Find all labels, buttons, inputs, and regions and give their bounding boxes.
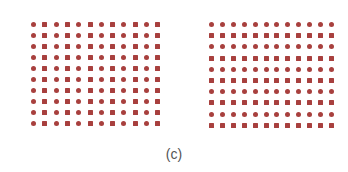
square-dot <box>242 123 247 128</box>
square-dot <box>155 22 160 27</box>
circle-dot <box>54 44 59 49</box>
square-dot <box>318 33 323 38</box>
circle-dot <box>318 112 323 117</box>
square-dot <box>155 44 160 49</box>
square-dot <box>231 78 236 83</box>
square-dot <box>296 100 301 105</box>
circle-dot <box>253 89 258 94</box>
circle-dot <box>99 55 104 60</box>
square-dot <box>65 44 70 49</box>
circle-dot <box>121 99 126 104</box>
circle-dot <box>274 67 279 72</box>
circle-dot <box>264 22 269 27</box>
circle-dot <box>285 44 290 49</box>
circle-dot <box>144 44 149 49</box>
circle-dot <box>54 66 59 71</box>
square-dot <box>318 123 323 128</box>
circle-dot <box>220 67 225 72</box>
square-dot <box>220 100 225 105</box>
circle-dot <box>31 55 36 60</box>
circle-dot <box>54 77 59 82</box>
circle-dot <box>329 22 334 27</box>
square-dot <box>209 100 214 105</box>
square-dot <box>65 88 70 93</box>
circle-dot <box>76 99 81 104</box>
circle-dot <box>264 44 269 49</box>
square-dot <box>285 78 290 83</box>
circle-dot <box>209 67 214 72</box>
square-dot <box>133 66 138 71</box>
circle-dot <box>99 66 104 71</box>
square-dot <box>231 100 236 105</box>
square-dot <box>307 56 312 61</box>
square-dot <box>296 78 301 83</box>
circle-dot <box>242 44 247 49</box>
square-dot <box>264 100 269 105</box>
circle-dot <box>209 44 214 49</box>
square-dot <box>209 56 214 61</box>
circle-dot <box>31 88 36 93</box>
square-dot <box>274 78 279 83</box>
square-dot <box>65 22 70 27</box>
square-dot <box>42 22 47 27</box>
circle-dot <box>231 89 236 94</box>
square-dot <box>42 55 47 60</box>
square-dot <box>274 56 279 61</box>
circle-dot <box>144 77 149 82</box>
square-dot <box>110 77 115 82</box>
square-dot <box>253 100 258 105</box>
square-dot <box>65 121 70 126</box>
circle-dot <box>121 88 126 93</box>
circle-dot <box>209 89 214 94</box>
circle-dot <box>54 33 59 38</box>
square-dot <box>133 22 138 27</box>
circle-dot <box>144 88 149 93</box>
square-dot <box>88 121 93 126</box>
square-dot <box>42 44 47 49</box>
circle-dot <box>76 66 81 71</box>
square-dot <box>231 123 236 128</box>
square-dot <box>110 22 115 27</box>
square-dot <box>88 66 93 71</box>
square-dot <box>155 121 160 126</box>
square-dot <box>42 33 47 38</box>
square-dot <box>253 56 258 61</box>
circle-dot <box>31 66 36 71</box>
square-dot <box>307 33 312 38</box>
circle-dot <box>31 110 36 115</box>
circle-dot <box>31 22 36 27</box>
square-dot <box>88 44 93 49</box>
circle-dot <box>285 89 290 94</box>
circle-dot <box>121 55 126 60</box>
square-dot <box>110 99 115 104</box>
square-dot <box>296 33 301 38</box>
circle-dot <box>99 44 104 49</box>
circle-dot <box>121 110 126 115</box>
square-dot <box>42 77 47 82</box>
square-dot <box>110 66 115 71</box>
circle-dot <box>76 55 81 60</box>
square-dot <box>155 99 160 104</box>
circle-dot <box>329 44 334 49</box>
square-dot <box>133 33 138 38</box>
square-dot <box>42 121 47 126</box>
circle-dot <box>253 44 258 49</box>
square-dot <box>155 55 160 60</box>
circle-dot <box>144 121 149 126</box>
circle-dot <box>285 112 290 117</box>
square-dot <box>274 100 279 105</box>
circle-dot <box>144 22 149 27</box>
square-dot <box>133 110 138 115</box>
circle-dot <box>31 44 36 49</box>
square-dot <box>242 33 247 38</box>
square-dot <box>253 123 258 128</box>
square-dot <box>329 33 334 38</box>
circle-dot <box>296 44 301 49</box>
circle-dot <box>296 112 301 117</box>
square-dot <box>329 123 334 128</box>
circle-dot <box>99 88 104 93</box>
square-dot <box>88 88 93 93</box>
circle-dot <box>220 44 225 49</box>
circle-dot <box>264 89 269 94</box>
square-dot <box>220 78 225 83</box>
